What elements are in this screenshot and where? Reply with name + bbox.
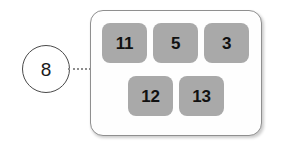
tile-row-top: 11 5 3	[102, 23, 249, 63]
tile-label: 5	[171, 35, 180, 52]
tile-item[interactable]: 3	[204, 23, 249, 63]
tile-label: 11	[116, 35, 133, 52]
diagram-stage: 8 11 5 3 12 13	[0, 0, 281, 149]
tile-row-bottom: 12 13	[128, 76, 224, 116]
tile-item[interactable]: 12	[128, 76, 173, 116]
tile-label: 13	[192, 88, 210, 105]
leader-line-icon	[68, 68, 91, 72]
callout-marker-8[interactable]: 8	[22, 45, 70, 93]
tile-item[interactable]: 5	[153, 23, 198, 63]
tile-item[interactable]: 11	[102, 23, 147, 63]
tile-item[interactable]: 13	[179, 76, 224, 116]
tile-panel: 11 5 3 12 13	[90, 10, 262, 136]
tile-label: 12	[141, 88, 159, 105]
callout-number: 8	[41, 60, 52, 79]
tile-label: 3	[222, 35, 231, 52]
